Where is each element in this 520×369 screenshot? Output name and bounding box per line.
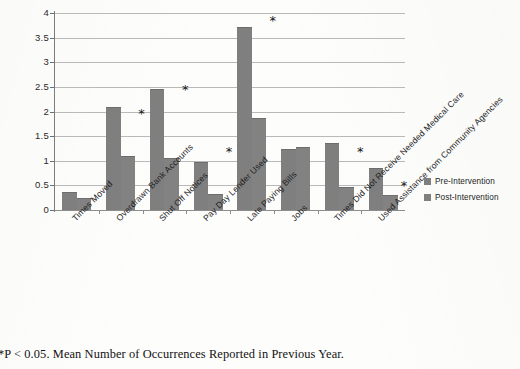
- bar-post-intervention[interactable]: [296, 147, 311, 210]
- x-tick-mark: [143, 210, 144, 214]
- bar-group: [55, 13, 99, 210]
- y-tick-label: 3.5: [5, 33, 49, 43]
- legend-swatch-pre-intervention: [424, 178, 431, 185]
- bar-group: [318, 13, 362, 210]
- y-tick-label: 3: [5, 57, 49, 67]
- legend-item-pre-intervention[interactable]: Pre-Intervention: [424, 177, 520, 186]
- legend-label-pre-intervention: Pre-Intervention: [435, 177, 495, 186]
- y-axis-labels: 00.511.522.533.54: [0, 0, 49, 369]
- y-tick-label: 2: [5, 107, 49, 117]
- x-tick-mark: [318, 210, 319, 214]
- x-tick-mark: [230, 210, 231, 214]
- significance-marker: *: [357, 150, 364, 154]
- legend-item-post-intervention[interactable]: Post-Intervention: [424, 193, 520, 202]
- significance-marker: *: [138, 112, 145, 116]
- significance-marker: *: [269, 19, 276, 23]
- y-tick-label: 4: [5, 8, 49, 18]
- x-tick-mark: [186, 210, 187, 214]
- chart-legend: Pre-Intervention Post-Intervention: [424, 177, 520, 209]
- significance-marker: *: [182, 88, 189, 92]
- bar-pre-intervention[interactable]: [106, 107, 121, 210]
- significance-marker: *: [226, 150, 233, 154]
- figure-caption: *P < 0.05. Mean Number of Occurrences Re…: [0, 347, 518, 362]
- x-tick-mark: [274, 210, 275, 214]
- y-tick-label: 1: [5, 156, 49, 166]
- y-tick-label: 2.5: [5, 82, 49, 92]
- bar-chart-figure: 00.511.522.533.54 ****** Times MovedOver…: [0, 0, 520, 369]
- legend-label-post-intervention: Post-Intervention: [435, 193, 499, 202]
- bar-pre-intervention[interactable]: [325, 143, 340, 210]
- legend-swatch-post-intervention: [424, 194, 431, 201]
- y-tick-label: 0.5: [5, 180, 49, 190]
- x-tick-mark: [361, 210, 362, 214]
- bar-pre-intervention[interactable]: [62, 192, 77, 210]
- y-tick-label: 0: [5, 205, 49, 215]
- x-tick-mark: [99, 210, 100, 214]
- y-tick-label: 1.5: [5, 131, 49, 141]
